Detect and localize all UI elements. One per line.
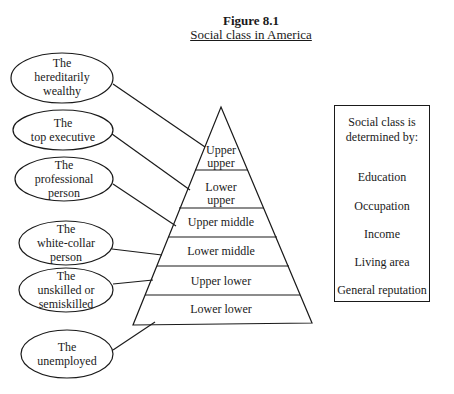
layer-lower-upper: Lower upper xyxy=(191,181,251,207)
group-unskilled: The unskilled or semiskilled xyxy=(16,269,116,311)
layer-upper-lower: Upper lower xyxy=(171,275,271,288)
group-top-executive: The top executive xyxy=(13,116,113,144)
group-white-collar: The white-collar person xyxy=(16,222,116,264)
criterion-income: Income xyxy=(335,227,429,242)
criteria-box: Social class is determined by: Education… xyxy=(334,105,430,302)
criteria-heading: Social class is determined by: xyxy=(335,115,429,145)
layer-upper-middle: Upper middle xyxy=(171,216,271,229)
criterion-general-reputation: General reputation xyxy=(335,283,429,298)
layer-lower-lower: Lower lower xyxy=(171,303,271,316)
group-professional: The professional person xyxy=(14,158,114,200)
group-unemployed: The unemployed xyxy=(17,340,117,368)
criterion-education: Education xyxy=(335,170,429,185)
criterion-occupation: Occupation xyxy=(335,199,429,214)
layer-upper-upper: Upper upper xyxy=(191,144,251,170)
layer-lower-middle: Lower middle xyxy=(171,245,271,258)
group-hereditarily-wealthy: The hereditarily wealthy xyxy=(12,56,112,98)
criterion-living-area: Living area xyxy=(335,255,429,270)
